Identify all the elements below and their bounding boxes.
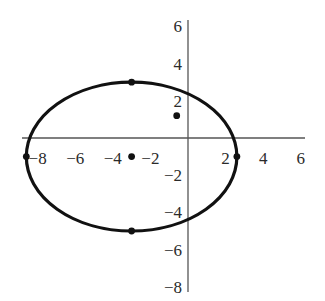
- point-right-vertex: [233, 153, 240, 160]
- x-tick-labels: −8−6−4−2246: [29, 149, 305, 168]
- y-tick-label: −2: [164, 166, 182, 185]
- x-tick-label: 2: [221, 149, 230, 168]
- point-top-vertex: [128, 79, 135, 86]
- point-center: [128, 153, 135, 160]
- point-bottom-vertex: [128, 228, 135, 235]
- x-tick-label: −4: [104, 149, 123, 168]
- point-left-vertex: [23, 153, 30, 160]
- x-tick-label: 6: [297, 149, 306, 168]
- y-tick-labels: 642−2−4−6−8: [164, 17, 183, 296]
- points: [23, 79, 240, 235]
- y-tick-label: 4: [174, 55, 183, 74]
- point-isolated-point: [173, 112, 180, 119]
- x-tick-label: 4: [259, 149, 268, 168]
- x-tick-label: −8: [29, 149, 47, 168]
- ellipse-chart: −8−6−4−2246 642−2−4−6−8: [0, 0, 325, 301]
- y-tick-label: 2: [174, 92, 183, 111]
- x-tick-label: −2: [141, 149, 159, 168]
- x-tick-label: −6: [66, 149, 84, 168]
- y-tick-label: −8: [164, 278, 182, 297]
- y-tick-label: 6: [174, 17, 183, 36]
- y-tick-label: −4: [164, 203, 183, 222]
- y-tick-label: −6: [164, 241, 182, 260]
